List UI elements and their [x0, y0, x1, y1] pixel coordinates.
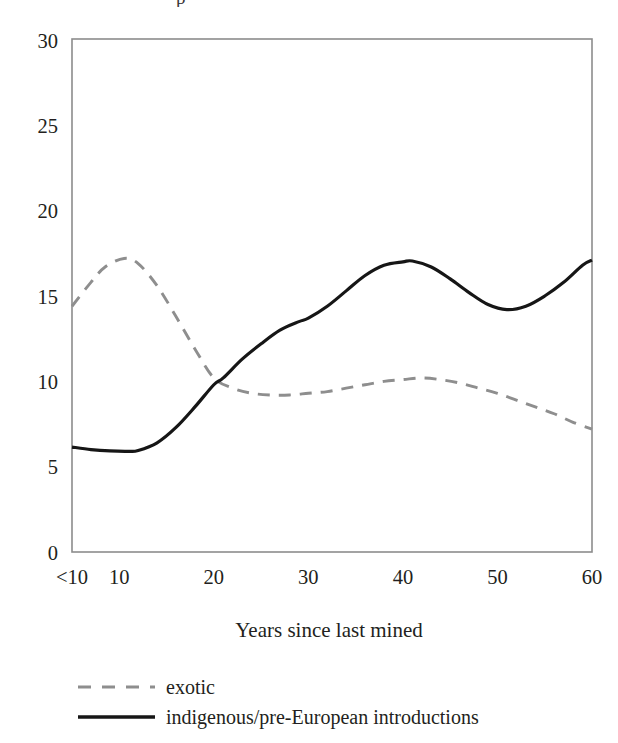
x-tick-label-50: 50	[487, 566, 508, 588]
chart-legend: exoticindigenous/pre-European introducti…	[78, 676, 479, 729]
y-axis-tick-labels: 051015202530	[38, 30, 59, 564]
x-tick-label-30: 30	[298, 566, 319, 588]
line-chart: 051015202530 <10102030405060 Years since…	[0, 0, 618, 743]
legend-label-exotic: exotic	[166, 676, 215, 698]
clipped-title-fragment: p	[176, 0, 190, 7]
legend-label-indigenous: indigenous/pre-European introductions	[166, 706, 479, 729]
y-tick-label-25: 25	[38, 115, 59, 137]
y-tick-label-5: 5	[48, 456, 58, 478]
y-tick-label-0: 0	[48, 542, 58, 564]
y-tick-label-10: 10	[38, 371, 59, 393]
x-tick-label-10: 10	[109, 566, 130, 588]
x-axis-title: Years since last mined	[235, 618, 423, 642]
x-tick-label-60: 60	[582, 566, 603, 588]
y-tick-label-30: 30	[38, 30, 59, 52]
x-tick-label-lt10: <10	[56, 566, 88, 588]
x-tick-label-40: 40	[393, 566, 414, 588]
clipped-title-glyph: p	[176, 0, 190, 7]
x-axis-tick-labels: <10102030405060	[56, 566, 602, 588]
y-tick-label-20: 20	[38, 200, 59, 222]
figure-container: p 051015202530 <10102030405060 Years sin…	[0, 0, 618, 743]
plot-area-frame	[72, 39, 592, 552]
y-tick-label-15: 15	[38, 286, 59, 308]
x-tick-label-20: 20	[204, 566, 225, 588]
